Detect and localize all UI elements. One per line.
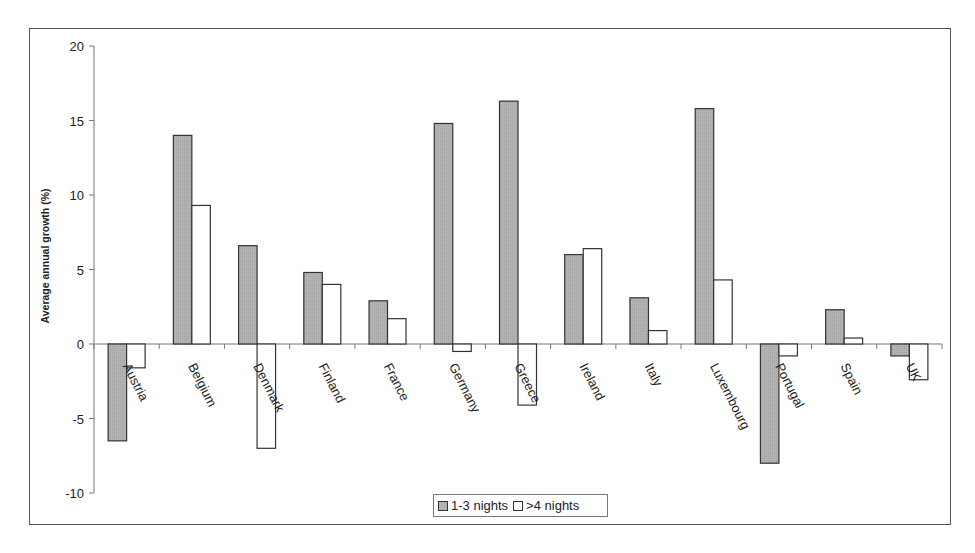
bar-ireland-1-3-nights (565, 255, 584, 344)
bar-austria-1-3-nights (108, 344, 127, 441)
bar-germany-over-4-nights (453, 344, 472, 351)
x-tick-label-ireland: Ireland (577, 361, 608, 403)
legend-item-over-4-nights: >4 nights (513, 498, 579, 513)
y-tick-label: 5 (77, 263, 84, 278)
bar-chart: 20151050-5-10 AustriaBelgiumDenmarkFinla… (0, 0, 975, 553)
x-tick-label-italy: Italy (642, 361, 666, 389)
bar-finland-over-4-nights (322, 284, 341, 344)
x-tick-label-greece: Greece (511, 361, 544, 406)
y-tick-label: 20 (70, 39, 84, 54)
bar-portugal-1-3-nights (760, 344, 779, 463)
legend-swatch-white (513, 501, 523, 511)
bar-ireland-over-4-nights (583, 249, 602, 344)
legend-label: 1-3 nights (451, 498, 508, 513)
bars (108, 101, 928, 463)
bar-italy-over-4-nights (648, 331, 667, 344)
bar-uk-1-3-nights (891, 344, 910, 356)
legend: 1-3 nights >4 nights (433, 494, 608, 517)
legend-swatch-gray (438, 501, 448, 511)
legend-label: >4 nights (526, 498, 579, 513)
bar-portugal-over-4-nights (779, 344, 798, 356)
bar-belgium-over-4-nights (192, 205, 211, 344)
bar-spain-over-4-nights (844, 338, 863, 344)
bar-spain-1-3-nights (826, 310, 845, 344)
legend-item-1-3-nights: 1-3 nights (438, 498, 508, 513)
y-tick-label: 0 (77, 337, 84, 352)
bar-luxembourg-1-3-nights (695, 109, 714, 344)
y-tick-label: -5 (72, 412, 84, 427)
x-tick-label-luxembourg: Luxembourg (707, 361, 753, 432)
bar-france-1-3-nights (369, 301, 388, 344)
x-tick-label-spain: Spain (837, 361, 865, 397)
bar-luxembourg-over-4-nights (714, 280, 733, 344)
y-tick-label: -10 (65, 486, 84, 501)
x-tick-label-germany: Germany (446, 361, 484, 416)
bar-finland-1-3-nights (304, 272, 323, 344)
x-tick-label-france: France (381, 361, 413, 404)
bar-belgium-1-3-nights (173, 135, 192, 344)
y-axis-label: Average annual growth (%) (39, 189, 51, 324)
x-tick-label-belgium: Belgium (185, 361, 220, 410)
bar-greece-1-3-nights (500, 101, 519, 344)
bar-france-over-4-nights (388, 319, 407, 344)
bar-denmark-1-3-nights (239, 246, 257, 344)
x-tick-label-finland: Finland (316, 361, 349, 406)
bar-italy-1-3-nights (630, 298, 649, 344)
bar-germany-1-3-nights (434, 123, 453, 344)
y-tick-label: 10 (70, 188, 84, 203)
y-tick-label: 15 (70, 114, 84, 129)
